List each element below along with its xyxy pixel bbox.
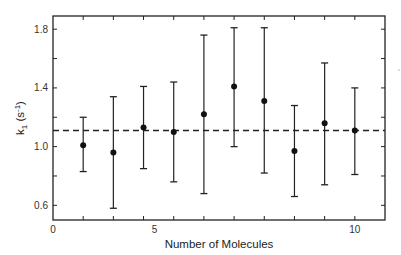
plot-border bbox=[53, 16, 385, 220]
x-tick-label: 5 bbox=[152, 224, 158, 235]
marker-dot bbox=[201, 111, 207, 117]
data-point bbox=[200, 35, 207, 194]
x-tick-label: 10 bbox=[349, 224, 361, 235]
x-axis-title: Number of Molecules bbox=[165, 238, 274, 250]
marker-dot bbox=[110, 149, 116, 155]
y-tick-label: 1.0 bbox=[34, 141, 48, 152]
data-point bbox=[140, 86, 147, 168]
x-axis: 0510 bbox=[50, 16, 361, 235]
marker-dot bbox=[171, 129, 177, 135]
marker-dot bbox=[231, 83, 237, 89]
data-point bbox=[110, 97, 117, 209]
y-tick-label: 1.8 bbox=[34, 24, 48, 35]
data-point bbox=[321, 63, 328, 185]
data-point bbox=[291, 106, 298, 197]
data-point bbox=[231, 28, 238, 147]
stray-dot-artifact bbox=[398, 69, 399, 70]
marker-dot bbox=[352, 127, 358, 133]
plot-frame bbox=[53, 16, 385, 220]
marker-dot bbox=[261, 98, 267, 104]
y-axis: 0.61.01.41.8 bbox=[34, 24, 385, 211]
data-point bbox=[261, 28, 268, 173]
marker-dot bbox=[141, 125, 147, 131]
y-tick-label: 1.4 bbox=[34, 82, 48, 93]
data-point bbox=[170, 82, 177, 182]
marker-dot bbox=[80, 142, 86, 148]
marker-dot bbox=[291, 148, 297, 154]
data-point bbox=[351, 88, 358, 175]
chart: 0.61.01.41.8 0510 Number of Molecules k1… bbox=[0, 0, 401, 255]
marker-dot bbox=[322, 120, 328, 126]
y-tick-label: 0.6 bbox=[34, 200, 48, 211]
y-axis-title: k1 (s-1) bbox=[13, 101, 29, 135]
data-series bbox=[80, 28, 359, 209]
x-tick-label: 0 bbox=[50, 224, 56, 235]
data-point bbox=[80, 117, 87, 171]
